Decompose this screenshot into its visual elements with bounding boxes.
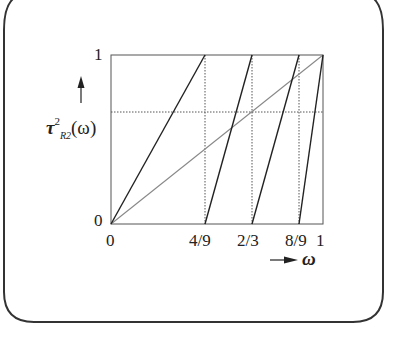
y-tick-0: 0 [94, 212, 103, 229]
x-axis-label: ω [302, 249, 316, 268]
rounded-frame [4, 0, 383, 322]
y-axis-arrow-icon [78, 76, 85, 103]
y-argument: (ω) [71, 117, 96, 138]
x-tick-0: 0 [106, 232, 115, 249]
y-axis-label: τ2R2(ω) [46, 118, 96, 141]
y-superscript: 2 [54, 115, 60, 127]
sawtooth-segment-4 [299, 55, 323, 224]
diagonal-line [111, 55, 323, 224]
x-tick-8-9: 8/9 [285, 232, 307, 249]
y-tick-1: 1 [94, 46, 103, 63]
x-tick-4-9: 4/9 [189, 232, 211, 249]
sawtooth-segment-3 [252, 55, 299, 224]
diagram-canvas [0, 0, 397, 342]
sawtooth-segment-2 [205, 55, 252, 224]
sawtooth-segment-1 [111, 55, 205, 224]
x-tick-2-3: 2/3 [237, 232, 259, 249]
x-tick-1: 1 [316, 232, 325, 249]
x-axis-arrow-icon [270, 257, 298, 264]
y-subscript: R2 [60, 130, 71, 141]
